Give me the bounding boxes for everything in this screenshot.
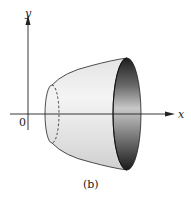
y-axis-label: y xyxy=(24,7,32,20)
x-axis-arrow-icon xyxy=(165,112,175,117)
diagram-canvas: x y 0 (b) xyxy=(0,0,191,197)
figure-caption: (b) xyxy=(83,178,99,191)
surface-of-revolution-figure: x y 0 (b) xyxy=(0,0,191,197)
x-axis-label: x xyxy=(178,108,185,121)
origin-label: 0 xyxy=(19,116,26,129)
y-axis xyxy=(26,15,31,130)
